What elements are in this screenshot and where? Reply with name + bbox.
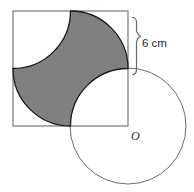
dimension-label: 6 cm	[142, 37, 167, 49]
shaded-astroid-region	[13, 11, 128, 126]
geometry-figure-container: . 6 cm O	[0, 0, 194, 192]
scan-artifact-text: .	[95, 0, 98, 8]
centre-point-label: O	[131, 129, 140, 143]
dimension-brace	[133, 18, 141, 75]
geometry-diagram: . 6 cm O	[0, 0, 194, 192]
